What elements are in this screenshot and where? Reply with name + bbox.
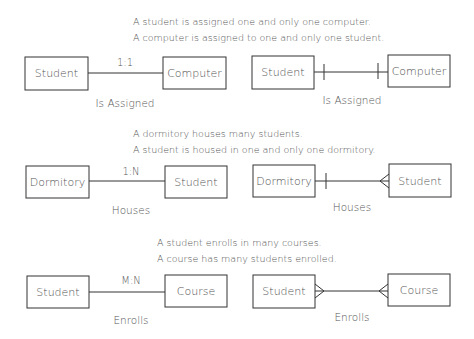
section-one-to-many: A dormitory houses many students. A stud… (26, 128, 451, 216)
cardinality-label: 1:N (122, 166, 139, 177)
entity-label: Computer (392, 65, 447, 78)
description-line-1: A student is assigned one and only one c… (133, 16, 371, 27)
entity-label: Student (262, 285, 305, 298)
entity-label: Course (400, 284, 438, 297)
relationship-label: Enrolls (113, 314, 148, 326)
relationship-label: Enrolls (334, 311, 369, 323)
relationship-label: Houses (112, 204, 150, 216)
cardinality-label: 1:1 (117, 57, 133, 68)
entity-label: Student (174, 176, 217, 189)
relationship-label: Is Assigned (322, 94, 381, 106)
entity-label: Course (177, 285, 215, 298)
entity-label: Student (35, 67, 78, 80)
section-many-to-many: A student enrolls in many courses. A cou… (27, 237, 450, 326)
section-one-to-one: A student is assigned one and only one c… (25, 16, 450, 109)
entity-label: Student (398, 175, 441, 188)
cardinality-label: M:N (121, 275, 140, 286)
entity-label: Student (261, 66, 304, 79)
description-line-1: A dormitory houses many students. (133, 128, 303, 139)
entity-label: Dormitory (30, 176, 85, 189)
relationship-label: Is Assigned (95, 97, 154, 109)
entity-label: Dormitory (256, 175, 311, 188)
description-line-2: A computer is assigned to one and only o… (133, 32, 384, 43)
entity-label: Student (36, 286, 79, 299)
description-line-2: A course has many students enrolled. (157, 253, 337, 264)
er-diagram: A student is assigned one and only one c… (0, 0, 474, 339)
entity-label: Computer (167, 67, 222, 80)
description-line-1: A student enrolls in many courses. (157, 237, 322, 248)
description-line-2: A student is housed in one and only one … (133, 144, 375, 155)
relationship-label: Houses (333, 201, 371, 213)
